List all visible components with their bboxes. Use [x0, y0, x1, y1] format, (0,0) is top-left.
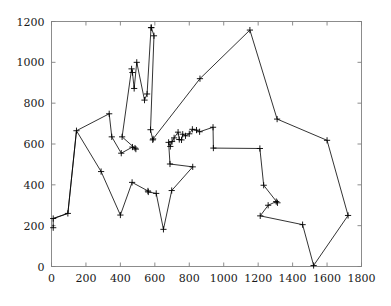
x-tick-label: 1800	[348, 272, 376, 285]
y-axis-ticks	[52, 22, 362, 267]
x-tick-label: 1400	[279, 272, 307, 285]
x-axis-ticks	[52, 22, 362, 267]
x-tick-label: 800	[179, 272, 200, 285]
y-tick-label: 400	[24, 179, 45, 192]
x-tick-label: 1600	[313, 272, 341, 285]
tour-path	[53, 28, 348, 266]
y-tick-label: 800	[24, 97, 45, 110]
y-tick-label: 1200	[17, 16, 45, 29]
x-tick-label: 1200	[244, 272, 272, 285]
x-tick-label: 200	[75, 272, 96, 285]
y-tick-label: 600	[24, 138, 45, 151]
tour-plot-svg: 020040060080010001200140016001800 020040…	[0, 0, 391, 306]
data-point-markers	[50, 25, 351, 269]
x-axis-tick-labels: 020040060080010001200140016001800	[48, 272, 376, 285]
plot-frame	[52, 22, 362, 267]
x-tick-label: 0	[48, 272, 55, 285]
y-axis-tick-labels: 020040060080010001200	[17, 16, 45, 274]
chart-container: 020040060080010001200140016001800 020040…	[0, 0, 391, 306]
x-tick-label: 400	[110, 272, 131, 285]
x-tick-label: 1000	[210, 272, 238, 285]
y-tick-label: 200	[24, 220, 45, 233]
x-tick-label: 600	[144, 272, 165, 285]
y-tick-label: 1000	[17, 56, 45, 69]
y-tick-label: 0	[38, 261, 45, 274]
